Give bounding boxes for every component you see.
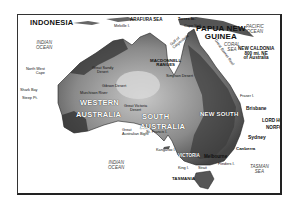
- label-arafura-sea: ARAFURA SEA: [130, 18, 163, 23]
- label-papua-new-guinea: PAPUA NEWGUINEA: [196, 25, 246, 41]
- label-sydney: Sydney: [248, 135, 266, 140]
- label-north-west-cape: North WestCape: [26, 68, 45, 76]
- label-lord-howe-island: LORD HOWE I.: [262, 119, 282, 124]
- label-tasman-sea: TASMANSEA: [250, 165, 269, 174]
- label-melbourne: Melbourne: [204, 155, 227, 160]
- label-gibson-desert: Gibson Desert: [102, 85, 126, 89]
- label-kangaroo-island: Kangaroo I.: [156, 149, 176, 153]
- label-indian-ocean-south: INDIANOCEAN: [108, 161, 124, 170]
- tasmania-landmass: [194, 171, 214, 189]
- label-steep-point: Steep Pt.: [22, 97, 38, 101]
- label-king-island: King I.: [178, 167, 189, 171]
- label-great-sandy-desert: Great SandyDesert: [92, 67, 113, 75]
- label-norfolk-island: NORFOLK I.: [266, 126, 282, 131]
- label-indonesia: INDONESIA: [30, 19, 73, 27]
- label-simpson-desert: Simpson Desert: [166, 75, 193, 79]
- label-torres-strait: Torres St.: [178, 18, 195, 22]
- label-st-francis-island: St. Francis I.: [146, 131, 167, 135]
- australia-relief-map: [18, 15, 280, 193]
- label-indian-ocean-north: INDIANOCEAN: [36, 41, 52, 50]
- label-pacific-ocean: PACIFICOCEAN: [246, 25, 264, 34]
- label-western-australia-2: AUSTRALIA: [76, 111, 121, 119]
- label-great-australian-bight: GreatAustralian Bight: [122, 129, 149, 137]
- label-macdonnell-ranges: MACDONNELLRANGES: [150, 59, 181, 68]
- label-flinders-island: Flinders I.: [218, 163, 235, 167]
- label-brisbane: Brisbane: [246, 107, 267, 112]
- label-melville-island: Melville I.: [114, 25, 130, 29]
- label-fraser-island: Fraser I.: [240, 95, 254, 99]
- label-tasmania: TASMANIA: [172, 177, 195, 181]
- label-murchison-river: Murchison River: [80, 92, 107, 96]
- map-frame: INDONESIA ARAFURA SEA Melville I. Torres…: [17, 14, 282, 195]
- label-victoria: VICTORIA: [178, 154, 200, 159]
- label-new-caledonia: NEW CALDONIA800 mi. NEof Australia: [238, 47, 274, 61]
- label-shark-bay: Shark Bay: [20, 89, 38, 93]
- label-western-australia-1: WESTERN: [80, 99, 119, 107]
- label-new-south-wales: NEW SOUTH: [200, 111, 238, 117]
- label-bass-strait: Strait: [198, 167, 207, 171]
- label-canberra: Canberra: [236, 147, 255, 151]
- label-south-australia-1: SOUTH: [142, 113, 169, 121]
